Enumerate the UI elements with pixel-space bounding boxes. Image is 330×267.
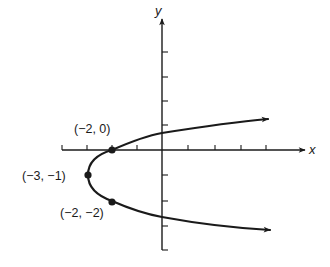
point-neg2-neg2 (108, 198, 115, 205)
y-axis-ticks (162, 52, 168, 250)
point-label-vertex: (−3, −1) (22, 169, 66, 183)
point-vertex (84, 171, 91, 178)
y-axis (162, 19, 168, 250)
parabola-graph: x y (−2, 0) (−3, −1) (−2, −2) (0, 0, 330, 267)
parabola-curve (88, 119, 270, 230)
y-axis-label: y (154, 3, 163, 18)
point-neg2-0 (108, 146, 115, 153)
x-axis (62, 145, 305, 150)
x-axis-ticks (62, 145, 266, 150)
point-label-neg2-neg2: (−2, −2) (60, 206, 104, 220)
x-axis-label: x (308, 142, 316, 157)
point-label-neg2-0: (−2, 0) (74, 122, 110, 136)
